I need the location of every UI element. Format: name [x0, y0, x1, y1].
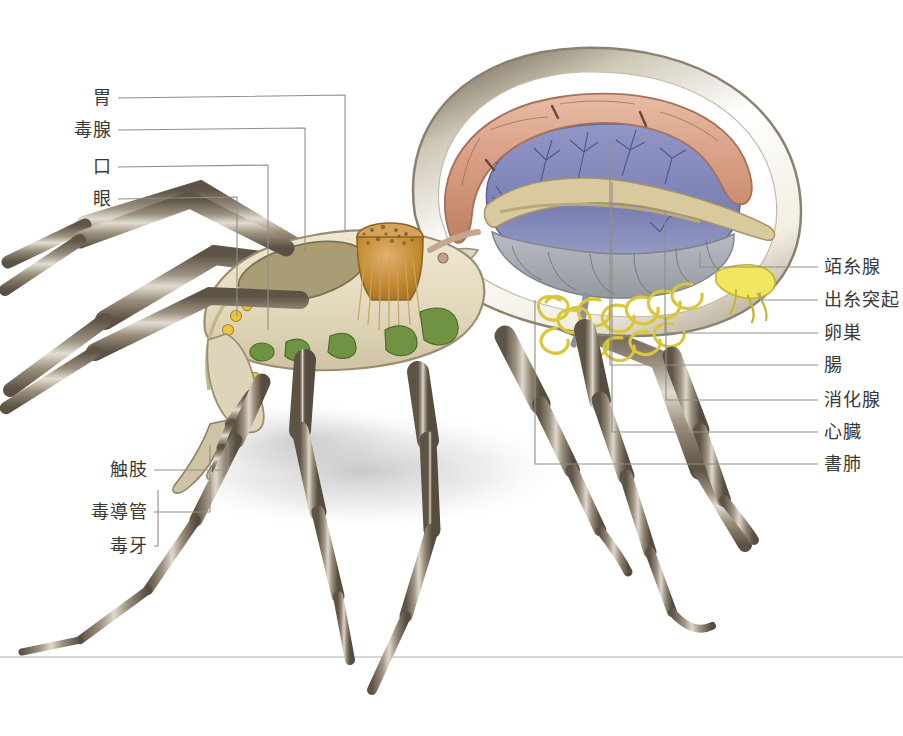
label-digestive-gland: 消化腺: [824, 391, 881, 409]
label-silk-gland: 竡糸腺: [824, 258, 881, 276]
label-spinneret: 出糸突起: [824, 291, 900, 309]
label-stomach: 胃: [93, 89, 112, 107]
label-heart: 心臓: [824, 423, 862, 441]
label-book-lung: 書肺: [824, 455, 862, 473]
label-venom-duct: 毒導管: [91, 503, 148, 521]
label-mouth: 口: [93, 158, 112, 176]
label-ovary: 卵巣: [824, 324, 862, 342]
anatomy-illustration: [0, 0, 903, 736]
label-fang: 毒牙: [110, 537, 148, 555]
spider-anatomy-figure: 胃毒腺口眼触肢毒導管毒牙竡糸腺出糸突起卵巣腸消化腺心臓書肺: [0, 0, 903, 736]
leader-line-fang: [154, 490, 158, 546]
label-eye: 眼: [93, 190, 112, 208]
label-pedipalp: 触肢: [110, 461, 148, 479]
label-intestine: 腸: [824, 356, 843, 374]
label-venom-gland: 毒腺: [74, 121, 112, 139]
